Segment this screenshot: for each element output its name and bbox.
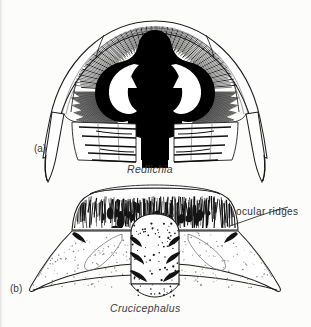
caption-crucicephalus: Crucicephalus	[110, 302, 180, 314]
genal-spine-left-a	[45, 112, 64, 182]
figure-plate: (a) Redlichia (b) Crucicephalus ocular r…	[0, 0, 311, 327]
panel-label-a: (a)	[34, 143, 46, 154]
genal-spine-right-a	[246, 112, 265, 182]
panel-label-b: (b)	[10, 283, 22, 294]
annotation-label-ocular-ridges: ocular ridges	[236, 206, 298, 217]
caption-redlichia: Redlichia	[127, 163, 173, 175]
glabella-b	[130, 214, 180, 297]
